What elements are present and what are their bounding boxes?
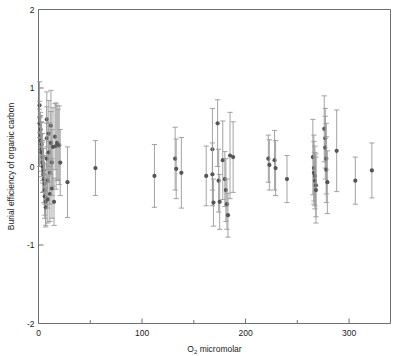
y-tick-label: -2 (27, 319, 35, 329)
y-tick-label: 0 (30, 162, 35, 172)
data-point-marker (65, 180, 69, 184)
data-point-marker (226, 213, 230, 217)
x-axis-title-rest: micromolar (197, 344, 242, 354)
data-point-marker (335, 149, 339, 153)
data-point-group (273, 141, 278, 196)
data-point-marker (285, 177, 289, 181)
data-point-marker (231, 155, 235, 159)
data-point-marker (325, 180, 329, 184)
data-point-group (152, 145, 157, 208)
data-point-marker (370, 168, 374, 172)
data-point-group (93, 141, 98, 196)
data-point-group (369, 143, 374, 198)
data-point-group (179, 137, 184, 208)
scatter-plot-figure: -2-10120100200300O2 micromolarBurial eff… (0, 0, 400, 356)
data-point-group (173, 127, 178, 190)
data-point-group (266, 135, 271, 182)
data-point-group (217, 174, 222, 229)
data-point-group (204, 146, 209, 206)
y-tick-label: -1 (27, 240, 35, 250)
data-point-marker (179, 171, 183, 175)
data-point-marker (314, 188, 318, 192)
data-point-marker (174, 167, 178, 171)
data-point-group (284, 156, 289, 203)
plot-frame (39, 10, 391, 324)
data-point-marker (50, 186, 54, 190)
data-point-group (231, 122, 236, 193)
data-point-marker (353, 179, 357, 183)
data-point-marker (152, 174, 156, 178)
y-tick-label: 1 (30, 83, 35, 93)
data-point-marker (44, 205, 48, 209)
data-point-group (272, 130, 277, 190)
y-axis-title: Burial efficiency of organic carbon (6, 103, 16, 231)
data-point-marker (218, 200, 222, 204)
data-point-marker (52, 200, 56, 204)
data-point-marker (267, 163, 271, 167)
data-point-marker (46, 197, 50, 201)
data-point-marker (204, 174, 208, 178)
data-point-marker (58, 160, 62, 164)
data-point-marker (211, 201, 215, 205)
data-point-marker (273, 166, 277, 170)
data-point-group (334, 110, 339, 192)
x-tick-label: 0 (36, 328, 41, 338)
data-series (37, 82, 375, 237)
x-tick-label: 200 (238, 328, 252, 338)
data-point-group (210, 143, 215, 206)
y-tick-label: 2 (30, 5, 35, 15)
x-tick-label: 300 (342, 328, 356, 338)
x-axis-title: O2 micromolar (187, 344, 242, 355)
plot-canvas: -2-10120100200300O2 micromolarBurial eff… (0, 0, 400, 356)
data-point-marker (210, 172, 214, 176)
data-point-group (215, 100, 220, 167)
data-point-marker (93, 166, 97, 170)
data-point-marker (216, 121, 220, 125)
x-tick-label: 100 (135, 328, 149, 338)
data-point-group (211, 179, 216, 226)
data-point-group (353, 157, 358, 204)
data-point-group (65, 147, 70, 218)
